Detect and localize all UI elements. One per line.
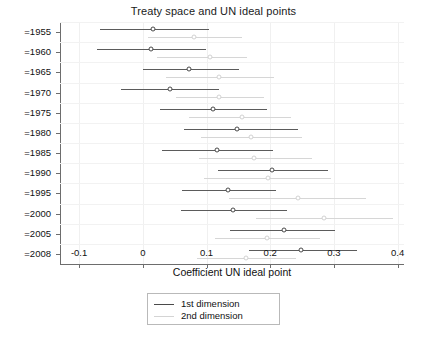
y-tick [56,93,60,94]
y-tick-label: =1960 [24,46,51,57]
legend-label: 1st dimension [181,298,240,310]
data-point-marker [149,46,154,51]
plot-area [60,22,404,264]
gridline-horizontal [60,183,404,184]
data-point-marker [167,87,172,92]
gridline-horizontal [60,143,404,144]
y-tick-label: =1965 [24,66,51,77]
gridline-horizontal [60,42,404,43]
data-point-marker [322,216,327,221]
data-point-marker [230,208,235,213]
legend-swatch-line-icon [154,304,174,305]
data-point-marker [210,107,215,112]
legend-item-2nd-dimension: 2nd dimension [154,310,273,322]
data-point-marker [295,195,300,200]
data-point-marker [265,236,270,241]
y-tick [56,32,60,33]
y-tick [56,234,60,235]
y-tick-label: =1975 [24,107,51,118]
data-point-marker [249,135,254,140]
x-tick-label: 0.1 [200,247,213,258]
y-tick [56,173,60,174]
gridline-horizontal [60,83,404,84]
data-point-marker [187,66,192,71]
confidence-interval-line [157,57,247,58]
y-tick [56,113,60,114]
chart-legend: 1st dimension 2nd dimension [147,293,280,325]
confidence-interval-line [184,129,298,130]
y-tick [56,133,60,134]
x-tick-label: -0.1 [71,247,87,258]
x-tick-label: 0.4 [391,247,404,258]
x-tick-label: 0.3 [327,247,340,258]
gridline-horizontal [60,62,404,63]
data-point-marker [252,155,257,160]
data-point-marker [299,248,304,253]
y-tick [56,214,60,215]
data-point-marker [191,34,196,39]
legend-item-1st-dimension: 1st dimension [154,298,273,310]
y-tick-label: =1980 [24,127,51,138]
y-tick [56,193,60,194]
y-axis-labels: =1955=1960=1965=1970=1975=1980=1985=1990… [0,22,57,264]
y-tick [56,72,60,73]
gridline-horizontal [60,163,404,164]
data-point-marker [151,26,156,31]
data-point-marker [239,115,244,120]
gridline-horizontal [60,244,404,245]
chart-figure: Treaty space and UN ideal points =1955=1… [0,0,427,341]
y-tick [56,52,60,53]
legend-label: 2nd dimension [181,310,243,322]
data-point-marker [207,54,212,59]
data-point-marker [217,74,222,79]
gridline-horizontal [60,22,404,23]
data-point-marker [235,127,240,132]
gridline-horizontal [60,204,404,205]
data-point-marker [282,228,287,233]
legend-swatch-line-icon [154,316,174,317]
data-point-marker [215,147,220,152]
y-tick-label: =2005 [24,228,51,239]
gridline-horizontal [60,224,404,225]
y-tick-label: =2008 [24,248,51,259]
y-tick-label: =1990 [24,167,51,178]
gridline-horizontal [60,103,404,104]
chart-title: Treaty space and UN ideal points [0,5,427,17]
x-axis-line [60,264,404,265]
y-tick [56,254,60,255]
data-point-marker [270,167,275,172]
y-tick [56,153,60,154]
y-tick-label: =1955 [24,26,51,37]
data-point-marker [217,95,222,100]
gridline-horizontal [60,123,404,124]
x-tick-label: 0 [140,247,145,258]
y-tick-label: =1985 [24,147,51,158]
y-tick-label: =1995 [24,187,51,198]
y-tick-label: =1970 [24,87,51,98]
data-point-marker [244,256,249,261]
data-point-marker [225,187,230,192]
x-axis-title: Coefficient UN ideal point [60,266,404,278]
y-tick-label: =2000 [24,208,51,219]
data-point-marker [265,175,270,180]
x-tick-label: 0.2 [264,247,277,258]
